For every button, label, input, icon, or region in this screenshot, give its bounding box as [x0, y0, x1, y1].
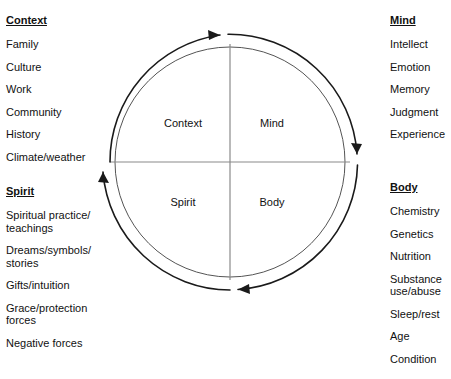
- list-item: Memory: [390, 83, 451, 96]
- group-mind: Mind Intellect Emotion Memory Judgment E…: [390, 14, 451, 141]
- cycle-arc-segment-4: [103, 172, 230, 290]
- cycle-arc-segment-3: [238, 165, 358, 290]
- quadrant-label-spirit: Spirit: [170, 196, 195, 208]
- list-item: Emotion: [390, 61, 451, 74]
- cycle-arrow-left-icon: [98, 172, 109, 183]
- quadrant-label-context: Context: [164, 117, 202, 129]
- cycle-arrow-top-icon: [208, 30, 220, 40]
- group-body: Body Chemistry Genetics Nutrition Substa…: [390, 181, 451, 365]
- cycle-arc-segment-2: [228, 34, 357, 154]
- list-item: Experience: [390, 128, 451, 141]
- group-heading-body: Body: [390, 181, 451, 194]
- group-heading-mind: Mind: [390, 14, 451, 27]
- cycle-diagram-svg: [88, 18, 373, 308]
- list-item: Negative forces: [6, 337, 136, 350]
- quadrant-label-body: Body: [259, 196, 284, 208]
- list-item: Condition: [390, 353, 451, 366]
- list-item: Judgment: [390, 106, 451, 119]
- list-item: Intellect: [390, 38, 451, 51]
- quadrant-label-mind: Mind: [260, 117, 284, 129]
- cycle-arrow-bottom-icon: [238, 284, 250, 294]
- list-item: Sleep/rest: [390, 308, 451, 321]
- cycle-diagram: Context Mind Spirit Body: [88, 18, 373, 308]
- list-item: Genetics: [390, 228, 451, 241]
- cycle-arc-segment-1: [110, 35, 220, 162]
- list-item: Nutrition: [390, 250, 451, 263]
- cycle-arrow-right-icon: [351, 143, 362, 154]
- list-item: Age: [390, 330, 451, 343]
- list-item: Substance use/abuse: [390, 273, 451, 298]
- list-item: Chemistry: [390, 205, 451, 218]
